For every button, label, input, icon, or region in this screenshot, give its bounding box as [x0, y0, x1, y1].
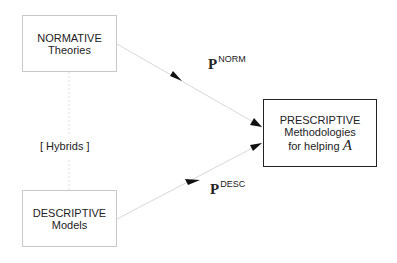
- desc-arrowhead-icon: [250, 143, 262, 151]
- descriptive-models-box: DESCRIPTIVE Models: [22, 190, 117, 247]
- hybrids-label: [ Hybrids ]: [40, 140, 90, 152]
- descriptive-title: DESCRIPTIVE: [33, 207, 106, 219]
- prescriptive-line3: for helping A: [288, 139, 352, 153]
- prescriptive-title: PRESCRIPTIVE: [280, 114, 361, 127]
- normative-title: NORMATIVE: [37, 32, 102, 44]
- actor-a-symbol: A: [343, 137, 352, 153]
- prescriptive-methodologies-box: PRESCRIPTIVE Methodologies for helping A: [263, 99, 377, 167]
- p-desc-label: PDESC: [210, 179, 245, 198]
- descriptive-subtitle: Models: [52, 219, 87, 231]
- normative-theories-box: NORMATIVE Theories: [22, 15, 117, 72]
- norm-arrowhead-icon: [250, 118, 262, 127]
- normative-subtitle: Theories: [48, 44, 91, 56]
- desc-mid-arrowhead-icon: [185, 179, 200, 185]
- p-norm-label: PNORM: [208, 54, 246, 73]
- norm-mid-arrowhead-icon: [170, 71, 182, 81]
